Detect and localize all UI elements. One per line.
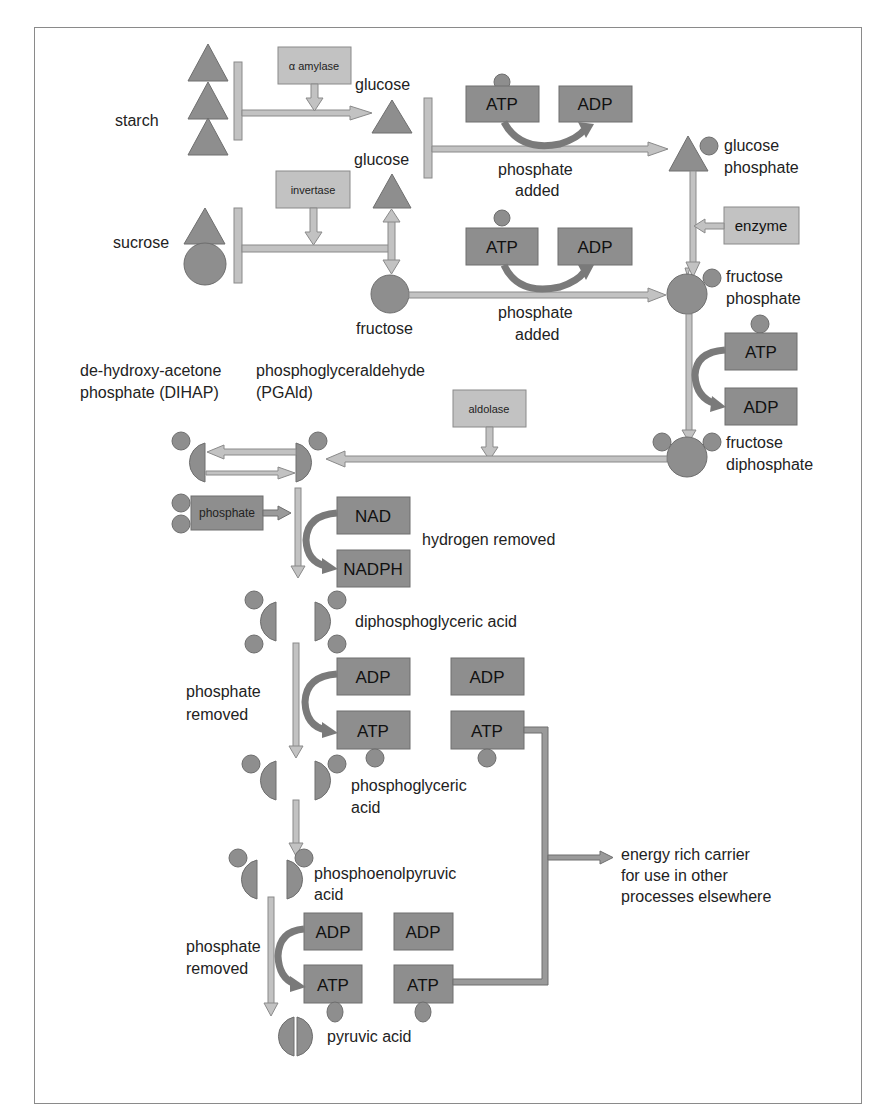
fructose-diphosphate-dot-left xyxy=(653,433,671,451)
glucose-label-2: glucose xyxy=(354,151,409,168)
removed-label-2: removed xyxy=(186,960,248,977)
pyruvic-acid-label: pyruvic acid xyxy=(327,1028,411,1045)
energy-carrier-label-1: energy rich carrier xyxy=(621,846,751,863)
phosphate-dot xyxy=(172,515,190,533)
phosphate-removed-label-2: phosphate xyxy=(186,938,261,955)
phosphate-added-label-2: phosphate xyxy=(498,304,573,321)
aldolase-arrow xyxy=(481,427,498,460)
glucose-label-1: glucose xyxy=(355,76,410,93)
phosphate-dot xyxy=(478,749,496,767)
phosphate-arrow xyxy=(263,506,291,520)
phosphoglyceric-label-1: phosphoglyceric xyxy=(351,777,467,794)
fructose-phosphate-to-diphosphate-arrow xyxy=(686,314,692,434)
phosphoglyceric-acid-left xyxy=(242,755,276,800)
phosphate-dot xyxy=(494,210,510,226)
invertase-label: invertase xyxy=(291,184,336,196)
fructose-phosphate-label-2: phosphate xyxy=(726,290,801,307)
pep-right xyxy=(287,849,313,899)
pgald-to-dihap-arrow xyxy=(207,445,296,459)
pyruvic-acid-molecule xyxy=(278,1017,312,1056)
energy-carrier-label-3: processes elsewhere xyxy=(621,888,771,905)
energy-collector-line xyxy=(453,727,548,985)
fructose-phosphate-dot xyxy=(703,269,721,287)
fructose-diphosphate-label-1: fructose xyxy=(726,434,783,451)
glucose-molecule-2 xyxy=(373,174,411,208)
pep-label-1: phosphoenolpyruvic xyxy=(314,865,456,882)
amylase-label: α amylase xyxy=(289,60,339,72)
fructose-diphosphate-to-pgald-arrow xyxy=(326,451,667,467)
glucose-phosphate-dot xyxy=(700,137,718,155)
split-vertical-arrow xyxy=(388,221,395,261)
diphosphoglyceric-acid-right xyxy=(315,591,346,653)
glucose-phosphate-label-2: phosphate xyxy=(724,159,799,176)
dihap-molecule xyxy=(172,432,205,482)
added-label-1: added xyxy=(515,182,560,199)
invertase-arrow xyxy=(305,208,322,245)
curved-arrow-nad xyxy=(306,513,337,566)
pgald-molecule xyxy=(296,432,327,482)
phosphate-added-label-1: phosphate xyxy=(498,161,573,178)
fructose-diphosphate-molecule xyxy=(667,437,707,477)
phosphate-dot xyxy=(751,315,769,333)
curved-arrowhead-nad xyxy=(322,558,338,574)
curved-arrowhead-4 xyxy=(322,722,338,738)
fructose-molecule xyxy=(371,275,409,313)
fructose-phosphate-molecule xyxy=(667,274,707,314)
sucrose-label: sucrose xyxy=(113,234,169,251)
dihap-label-2: phosphate (DIHAP) xyxy=(80,384,219,401)
sucrose-bracket xyxy=(234,208,242,283)
atp-label: ATP xyxy=(471,722,503,741)
starch-to-glucose-arrow xyxy=(242,106,372,120)
atp-label: ATP xyxy=(486,238,518,257)
pep-to-pyruvic-arrow xyxy=(268,897,274,1005)
pep-label-2: acid xyxy=(314,886,343,903)
atp-label: ATP xyxy=(317,976,349,995)
adp-label: ADP xyxy=(316,923,351,942)
diphosphoglyceric-label: diphosphoglyceric acid xyxy=(355,613,517,630)
starch-label: starch xyxy=(115,112,159,129)
nadph-label: NADPH xyxy=(343,560,403,579)
phosphoglyceric-acid-right xyxy=(315,755,346,800)
phosphate-dot xyxy=(327,1002,343,1022)
phosphate-dot xyxy=(415,1002,431,1022)
starch-bracket xyxy=(234,62,242,140)
glucose-phosphate-to-fructose-phosphate-arrow xyxy=(685,171,696,276)
curved-arrow-1 xyxy=(504,122,584,146)
phosphate-removed-label-1: phosphate xyxy=(186,683,261,700)
amylase-arrow xyxy=(306,84,323,111)
curved-arrow-3 xyxy=(695,350,725,404)
adp-label: ADP xyxy=(406,923,441,942)
atp-label: ATP xyxy=(357,722,389,741)
adp-label: ADP xyxy=(578,238,613,257)
atp-label: ATP xyxy=(407,976,439,995)
nad-label: NAD xyxy=(355,507,391,526)
hydrogen-removed-label: hydrogen removed xyxy=(422,531,555,548)
curved-arrow-5 xyxy=(278,929,304,984)
curved-arrowhead-3 xyxy=(710,396,726,412)
pgald-label-1: phosphoglyceraldehyde xyxy=(256,362,425,379)
energy-carrier-label-2: for use in other xyxy=(621,867,728,884)
arrowhead-down-2 xyxy=(383,260,400,274)
curved-arrow-4 xyxy=(305,674,337,730)
pep-left xyxy=(229,849,257,899)
arrowhead-down-4 xyxy=(291,566,305,578)
glucose-bracket xyxy=(424,98,432,178)
sucrose-split-line xyxy=(242,245,390,252)
adp-label: ADP xyxy=(744,398,779,417)
phosphate-dot xyxy=(172,494,190,512)
fructose-diphosphate-label-2: diphosphate xyxy=(726,456,813,473)
arrowhead-down-7 xyxy=(264,1003,278,1016)
sucrose-glucose-part xyxy=(184,208,225,244)
arrowhead-down-5 xyxy=(289,746,303,758)
diphosphoglyceric-acid-left xyxy=(245,591,276,653)
removed-label-1: removed xyxy=(186,706,248,723)
enzyme-arrow xyxy=(694,219,724,233)
dihap-to-pgald-arrow xyxy=(206,467,295,479)
pga-to-pep-arrow xyxy=(293,800,299,846)
starch-molecule xyxy=(188,44,228,155)
glycolysis-diagram: starch α amylase glucose glucose ATP ADP… xyxy=(0,0,882,1113)
dpga-to-pga-arrow xyxy=(293,643,299,748)
fructose-phosphate-label-1: fructose xyxy=(726,268,783,285)
dihap-label-1: de-hydroxy-acetone xyxy=(80,362,222,379)
enzyme-label: enzyme xyxy=(735,217,788,234)
